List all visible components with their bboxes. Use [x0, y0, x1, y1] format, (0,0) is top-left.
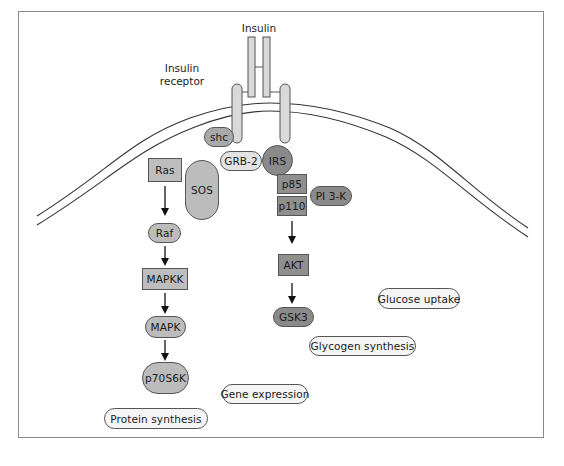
node-p110: p110 [277, 196, 307, 216]
node-akt: AKT [278, 254, 309, 276]
node-p70s6k: p70S6K [142, 362, 189, 394]
outcome-protein-synthesis: Protein synthesis [104, 408, 208, 429]
outcome-gene-expression: Gene expression [222, 384, 308, 404]
node-p85: p85 [277, 174, 307, 194]
insulin-receptor [232, 37, 290, 143]
outcome-glycogen-synthesis: Glycogen synthesis [309, 336, 416, 356]
outcome-glucose-uptake: Glucose uptake [378, 288, 460, 309]
node-pi3k: PI 3-K [310, 186, 352, 206]
node-raf: Raf [148, 223, 181, 243]
node-mapk: MAPK [145, 316, 186, 338]
node-gsk3: GSK3 [273, 307, 314, 327]
node-ras: Ras [148, 158, 182, 182]
receptor-alpha-left [248, 37, 255, 97]
receptor-beta-right [280, 84, 290, 143]
node-mapkk: MAPKK [142, 268, 188, 290]
insulin-receptor-label-line1: Insulin [152, 62, 212, 75]
node-shc: shc [204, 127, 234, 147]
insulin-receptor-label-line2: receptor [152, 75, 212, 88]
node-sos: SOS [185, 160, 219, 220]
insulin-label: Insulin [240, 22, 278, 35]
node-grb2: GRB-2 [220, 151, 262, 171]
insulin-receptor-label: Insulin receptor [152, 62, 212, 88]
receptor-alpha-right [263, 37, 270, 97]
node-irs: IRS [262, 145, 293, 176]
